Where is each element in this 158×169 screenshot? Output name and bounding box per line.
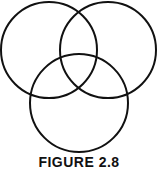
circle-top-right: [60, 2, 156, 98]
venn-diagram-figure: FIGURE 2.8: [0, 0, 158, 169]
circle-top-left: [1, 2, 97, 98]
figure-caption: FIGURE 2.8: [0, 154, 158, 169]
circle-bottom: [30, 54, 128, 152]
venn-diagram: [0, 0, 158, 169]
